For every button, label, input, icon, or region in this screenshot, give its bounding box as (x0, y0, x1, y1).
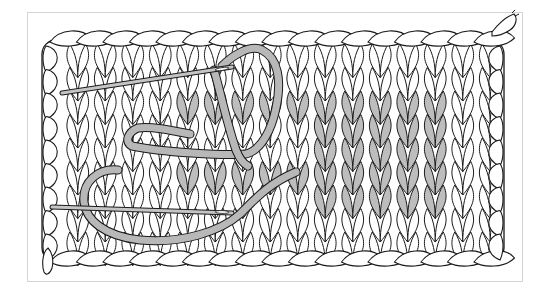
braided-bottom-edge (50, 251, 515, 266)
right-selvedge (489, 46, 503, 260)
left-selvedge (43, 46, 57, 260)
knitting-illustration (0, 0, 551, 295)
yarn-tail-top-right-icon (492, 10, 519, 36)
braided-top-edge (50, 31, 515, 46)
